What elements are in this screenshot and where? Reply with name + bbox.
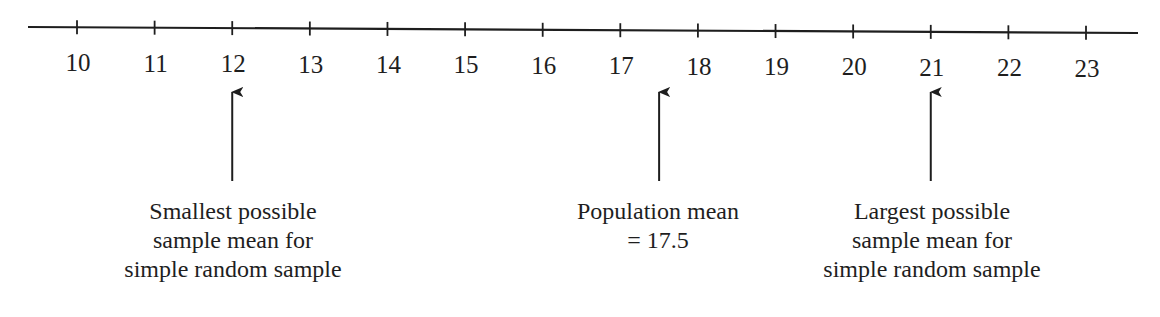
tick-label: 13 [298,51,323,78]
annotation-line: sample mean for [823,226,1040,255]
tick-label: 14 [376,51,402,78]
number-line-axis [28,27,1138,33]
annotation-line: Smallest possible [124,197,341,226]
annotation-line: Population mean [577,197,739,226]
tick-labels: 1011121314151617181920212223 [66,49,1100,81]
annotation-line: simple random sample [124,255,341,284]
tick-label: 21 [919,54,944,81]
tick-label: 11 [144,50,168,77]
tick-label: 10 [66,49,91,76]
tick-label: 19 [764,53,789,80]
annotation-largest-sample-mean: Largest possible sample mean for simple … [823,197,1040,284]
annotation-line: sample mean for [124,226,341,255]
tick-label: 12 [221,50,246,77]
annotation-smallest-sample-mean: Smallest possible sample mean for simple… [124,197,341,284]
tick-label: 23 [1075,55,1100,82]
tick-label: 20 [842,53,867,80]
tick-label: 16 [531,52,556,79]
tick-label: 22 [997,54,1022,81]
annotation-line: Largest possible [823,197,1040,226]
annotation-line: simple random sample [823,255,1040,284]
annotation-arrows [232,92,931,181]
annotation-line: = 17.5 [577,226,739,255]
tick-label: 18 [686,53,711,80]
tick-label: 17 [609,52,634,79]
annotation-population-mean: Population mean = 17.5 [577,197,739,255]
tick-label: 15 [454,51,479,78]
